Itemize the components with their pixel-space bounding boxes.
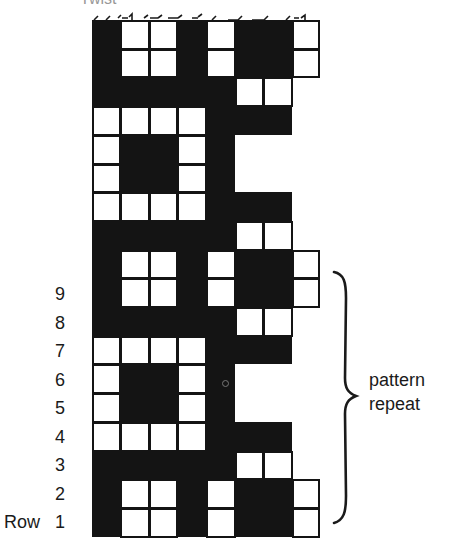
dark-square [92,479,120,508]
dark-square [263,422,292,451]
light-square [120,479,150,509]
scan-artifact-dot [222,380,229,387]
dark-square [206,164,235,192]
dark-square [235,336,263,364]
row-label-9: 9 [55,285,65,303]
dark-square [206,77,235,106]
dark-square [235,106,263,135]
light-square [235,451,264,480]
dark-square [206,307,235,336]
dark-square [206,221,235,250]
dark-square [263,336,292,364]
light-square [263,451,293,480]
dark-square [177,508,206,537]
dark-square [149,307,177,336]
light-square [149,479,178,509]
dark-square [206,135,235,164]
dark-square [263,479,292,508]
dark-square [235,49,263,77]
annotation-line-2: repeat [369,394,420,414]
dark-square [235,508,263,537]
light-square [292,278,320,308]
light-square [92,192,121,222]
row-label-1: 1 [55,513,65,531]
dark-square [92,451,120,479]
dark-square [206,106,235,135]
dark-square [149,77,177,106]
dark-square [177,307,206,336]
dark-square [235,422,263,451]
light-square [149,250,178,279]
dark-square [263,278,292,307]
dark-square [149,451,177,479]
light-square [206,250,236,279]
light-square [120,336,150,365]
row-word-label: Row [4,513,40,531]
light-square [149,278,178,308]
light-square [92,336,121,365]
row-label-3: 3 [55,456,65,474]
light-square [292,250,320,279]
dark-square [206,336,235,364]
dark-square [263,508,292,537]
dark-square [235,250,263,278]
dark-square [177,221,206,250]
row-label-4: 4 [55,428,65,446]
dark-square [235,278,263,307]
row-label-6: 6 [55,371,65,389]
dark-square [263,192,292,221]
dark-square [120,135,149,164]
light-square [206,508,236,538]
light-square [177,336,207,365]
light-square [149,106,178,136]
light-square [177,364,207,394]
light-square [235,307,264,337]
light-square [177,422,207,452]
light-square [292,479,320,509]
dark-square [120,451,149,479]
dark-square [149,135,177,164]
dark-square [206,422,235,451]
light-square [120,250,150,279]
dark-square [92,307,120,336]
light-square [206,20,236,50]
light-square [92,106,121,136]
light-square [263,221,293,251]
heading-text: Twist [80,0,116,7]
dark-square [149,221,177,250]
dark-square [177,451,206,479]
light-square [235,221,264,251]
row-label-8: 8 [55,314,65,332]
row-label-2: 2 [55,485,65,503]
dark-square [263,20,292,49]
dark-square [92,278,120,307]
dark-square [263,250,292,278]
light-square [235,77,264,107]
dark-square [235,479,263,508]
light-square [120,422,150,452]
light-square [120,278,150,308]
dark-square [235,192,263,221]
dark-square [263,106,292,135]
light-square [92,422,121,452]
annotation-line-1: pattern [369,370,425,390]
dark-square [177,20,206,49]
dark-square [120,307,149,336]
light-square [120,49,150,78]
light-square [149,49,178,78]
dark-square [177,479,206,508]
light-square [92,364,121,394]
dark-square [120,221,149,250]
cut-off-heading: Twist [80,0,116,8]
light-square [177,164,207,193]
light-square [206,479,236,509]
curly-brace-icon [330,268,370,528]
light-square [149,192,178,222]
dark-square [206,364,235,393]
dark-square [92,49,120,77]
dark-square [206,192,235,221]
dark-square [120,393,149,422]
dark-square [206,451,235,479]
dark-square [263,49,292,77]
light-square [149,336,178,365]
